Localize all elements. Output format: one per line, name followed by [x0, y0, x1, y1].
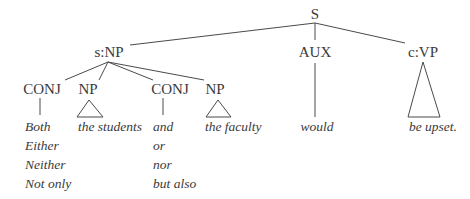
leaf-conj1-option: Both: [25, 119, 51, 134]
leaf-conj1-option: Either: [24, 138, 59, 153]
leaf-conj1-option: Not only: [24, 176, 71, 191]
edge-s-vp: [315, 23, 405, 43]
node-np2: NP: [205, 81, 224, 97]
edge-subject-np2: [108, 62, 204, 80]
np1-triangle: [77, 100, 103, 117]
node-subject-np: s:NP: [94, 44, 123, 60]
leaf-np1: the students: [78, 119, 142, 134]
node-conj2: CONJ: [151, 81, 189, 97]
leaf-aux: would: [300, 119, 333, 134]
edge-s-subject: [130, 23, 315, 45]
vp-triangle: [408, 62, 440, 117]
node-s: S: [311, 6, 319, 22]
edge-subject-conj2: [108, 62, 153, 80]
syntax-tree: S s:NP AUX c:VP CONJ NP CONJ NP Both Eit…: [0, 0, 470, 199]
node-conj1: CONJ: [23, 81, 61, 97]
node-np1: NP: [78, 81, 97, 97]
leaf-np2: the faculty: [205, 119, 262, 134]
leaf-conj1-option: Neither: [24, 157, 66, 172]
leaf-conj2-option: but also: [153, 176, 196, 191]
node-aux: AUX: [299, 44, 332, 60]
leaf-conj2-option: nor: [153, 157, 173, 172]
leaf-conj2-option: and: [153, 119, 174, 134]
node-vp: c:VP: [408, 44, 438, 60]
np2-triangle: [206, 100, 231, 117]
edge-subject-conj1: [65, 62, 108, 80]
leaf-conj2-option: or: [153, 138, 166, 153]
leaf-vp: be upset.: [409, 119, 457, 134]
